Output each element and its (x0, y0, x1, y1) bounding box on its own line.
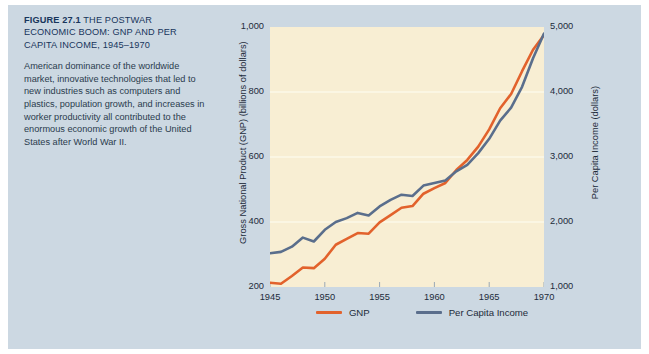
legend-swatch (416, 311, 442, 314)
figure-number: FIGURE 27.1 (24, 15, 81, 25)
caption-title: FIGURE 27.1 THE POSTWAR ECONOMIC BOOM: G… (24, 14, 206, 51)
legend-item: GNP (316, 307, 370, 318)
legend-label: Per Capita Income (449, 307, 528, 318)
legend-item: Per Capita Income (416, 307, 528, 318)
series-line-gnp (270, 35, 544, 284)
x-tick-label: 1960 (414, 292, 454, 302)
y-axis-left-title: Gross National Product (GNP) (billions o… (238, 18, 249, 268)
chart-container: Gross National Product (GNP) (billions o… (213, 19, 631, 319)
series-lines (270, 34, 544, 284)
gridlines (270, 92, 544, 222)
y-right-tick-label: 4,000 (550, 86, 592, 96)
y-left-tick-label: 800 (224, 86, 264, 96)
axis-tickmarks (270, 282, 544, 287)
y-left-tick-label: 400 (224, 216, 264, 226)
y-left-tick-label: 1,000 (224, 21, 264, 31)
legend-swatch (316, 311, 342, 314)
caption-body: American dominance of the worldwide mark… (24, 60, 206, 148)
figure-panel: FIGURE 27.1 THE POSTWAR ECONOMIC BOOM: G… (8, 5, 641, 349)
y-axis-right-title: Per Capita Income (dollars) (590, 18, 601, 268)
y-right-tick-label: 2,000 (550, 216, 592, 226)
x-tick-label: 1955 (360, 292, 400, 302)
x-tick-label: 1965 (469, 292, 509, 302)
y-left-tick-label: 200 (224, 281, 264, 291)
y-right-tick-label: 5,000 (550, 21, 592, 31)
x-tick-label: 1970 (524, 292, 564, 302)
x-tick-label: 1950 (305, 292, 345, 302)
figure-caption: FIGURE 27.1 THE POSTWAR ECONOMIC BOOM: G… (24, 14, 206, 148)
series-line-per-capita-income (270, 34, 544, 254)
y-right-tick-label: 1,000 (550, 281, 592, 291)
y-right-tick-label: 3,000 (550, 151, 592, 161)
y-left-tick-label: 600 (224, 151, 264, 161)
plot-area (270, 27, 544, 287)
chart-svg (270, 27, 544, 287)
legend-label: GNP (349, 307, 370, 318)
x-tick-label: 1945 (250, 292, 290, 302)
chart-legend: GNPPer Capita Income (213, 307, 631, 318)
